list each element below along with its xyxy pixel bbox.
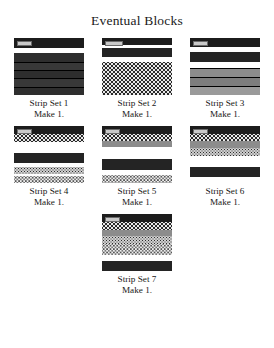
block-cell-strip-set-2: Strip Set 2Make 1. xyxy=(93,38,181,119)
fabric-band xyxy=(190,177,260,183)
block-name-label: Strip Set 7 xyxy=(118,274,157,285)
page-title: Eventual Blocks xyxy=(0,0,274,29)
fabric-band xyxy=(190,77,260,86)
fabric-band xyxy=(14,167,84,174)
fabric-band xyxy=(102,244,172,255)
block-cell-strip-set-6: Strip Set 6Make 1. xyxy=(181,126,269,207)
fabric-label-tag-icon xyxy=(193,41,208,47)
fabric-band xyxy=(14,70,84,79)
fabric-band xyxy=(190,38,260,47)
fabric-band xyxy=(14,176,84,183)
block-quantity-label: Make 1. xyxy=(118,285,157,296)
fabric-band xyxy=(102,222,172,230)
block-quantity-label: Make 1. xyxy=(30,197,69,208)
fabric-band xyxy=(14,134,84,142)
fabric-band xyxy=(14,38,84,48)
block-figure-strip-set-1 xyxy=(14,38,84,95)
block-name-label: Strip Set 1 xyxy=(30,98,69,109)
fabric-label-tag-icon xyxy=(105,217,120,223)
fabric-band xyxy=(102,126,172,134)
fabric-label-tag-icon xyxy=(105,41,123,47)
fabric-band xyxy=(14,78,84,87)
fabric-band xyxy=(190,126,260,134)
block-cell-strip-set-4: Strip Set 4Make 1. xyxy=(5,126,93,207)
fabric-band xyxy=(102,38,172,45)
block-caption: Strip Set 6Make 1. xyxy=(206,186,245,207)
fabric-band xyxy=(14,53,84,62)
fabric-band xyxy=(102,147,172,159)
fabric-band xyxy=(14,62,84,70)
fabric-band xyxy=(14,153,84,163)
fabric-band xyxy=(102,261,172,271)
block-row-1: Strip Set 1Make 1.Strip Set 2Make 1.Stri… xyxy=(0,38,274,119)
block-quantity-label: Make 1. xyxy=(206,197,245,208)
block-caption: Strip Set 1Make 1. xyxy=(30,98,69,119)
block-row-3: Strip Set 7Make 1. xyxy=(0,214,274,295)
fabric-band xyxy=(102,175,172,183)
fabric-band xyxy=(190,141,260,148)
block-name-label: Strip Set 5 xyxy=(118,186,157,197)
fabric-band xyxy=(190,167,260,177)
fabric-label-tag-icon xyxy=(17,129,32,135)
block-quantity-label: Make 1. xyxy=(30,109,69,120)
fabric-band xyxy=(190,68,260,77)
block-name-label: Strip Set 6 xyxy=(206,186,245,197)
block-cell-strip-set-3: Strip Set 3Make 1. xyxy=(181,38,269,119)
block-caption: Strip Set 2Make 1. xyxy=(118,98,157,119)
fabric-band xyxy=(14,87,84,96)
block-figure-strip-set-3 xyxy=(190,38,260,95)
fabric-band xyxy=(190,52,260,62)
block-quantity-label: Make 1. xyxy=(206,109,245,120)
block-cell-strip-set-5: Strip Set 5Make 1. xyxy=(93,126,181,207)
fabric-label-tag-icon xyxy=(193,129,208,135)
block-name-label: Strip Set 2 xyxy=(118,98,157,109)
block-cell-strip-set-7: Strip Set 7Make 1. xyxy=(93,214,181,295)
fabric-label-tag-icon xyxy=(105,129,120,135)
fabric-band xyxy=(102,159,172,170)
fabric-band xyxy=(14,142,84,153)
block-figure-strip-set-5 xyxy=(102,126,172,183)
fabric-label-tag-icon xyxy=(17,41,32,47)
fabric-band xyxy=(190,134,260,142)
fabric-band xyxy=(190,148,260,156)
block-figure-strip-set-7 xyxy=(102,214,172,271)
fabric-band xyxy=(190,156,260,167)
block-caption: Strip Set 3Make 1. xyxy=(206,98,245,119)
fabric-band xyxy=(102,48,172,57)
block-figure-strip-set-6 xyxy=(190,126,260,183)
fabric-band xyxy=(102,62,172,95)
block-quantity-label: Make 1. xyxy=(118,197,157,208)
fabric-band xyxy=(190,86,260,96)
fabric-band xyxy=(14,126,84,134)
block-caption: Strip Set 5Make 1. xyxy=(118,186,157,207)
fabric-band xyxy=(102,214,172,222)
block-row-2: Strip Set 4Make 1.Strip Set 5Make 1.Stri… xyxy=(0,126,274,207)
block-quantity-label: Make 1. xyxy=(118,109,157,120)
block-caption: Strip Set 4Make 1. xyxy=(30,186,69,207)
block-caption: Strip Set 7Make 1. xyxy=(118,274,157,295)
block-cell-strip-set-1: Strip Set 1Make 1. xyxy=(5,38,93,119)
block-name-label: Strip Set 3 xyxy=(206,98,245,109)
block-figure-strip-set-2 xyxy=(102,38,172,95)
fabric-band xyxy=(102,236,172,244)
fabric-band xyxy=(102,134,172,142)
block-name-label: Strip Set 4 xyxy=(30,186,69,197)
block-figure-strip-set-4 xyxy=(14,126,84,183)
